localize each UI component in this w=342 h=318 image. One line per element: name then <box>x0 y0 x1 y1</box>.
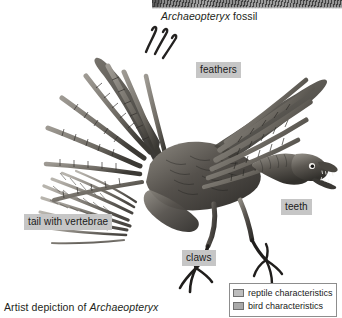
legend: reptile characteristics bird characteris… <box>229 283 337 317</box>
callout-teeth: teeth <box>281 199 312 215</box>
artist-caption-species: Archaeopteryx <box>89 301 158 313</box>
callout-claws: claws <box>182 250 216 266</box>
legend-item-reptile: reptile characteristics <box>233 287 333 299</box>
reptile-swatch-icon <box>233 289 244 297</box>
archaeopteryx-illustration <box>0 14 342 304</box>
legend-label-reptile: reptile characteristics <box>248 288 333 298</box>
callout-tail-with-vertebrae: tail with vertebrae <box>24 214 112 230</box>
callout-feathers: feathers <box>196 62 241 78</box>
fossil-photograph <box>152 0 342 9</box>
legend-item-bird: bird characteristics <box>233 300 333 312</box>
archaeopteryx-figure: Archaeopteryx fossil <box>0 0 342 318</box>
legend-label-bird: bird characteristics <box>248 301 323 311</box>
tail-feathers <box>40 171 136 243</box>
bird-swatch-icon <box>233 302 244 310</box>
artist-depiction-caption: Artist depiction of Archaeopteryx <box>4 301 158 313</box>
wing-claws <box>146 27 176 58</box>
artist-caption-prefix: Artist depiction of <box>4 301 89 313</box>
legs-and-feet <box>180 200 282 292</box>
head-and-neck <box>252 153 338 189</box>
